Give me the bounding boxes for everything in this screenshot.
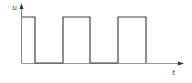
- waveform: [22, 17, 146, 63]
- y-axis-arrow-icon: [20, 3, 24, 9]
- x-axis-label: t: [172, 68, 176, 77]
- square-wave-diagram: u t: [0, 0, 192, 83]
- x-axis-arrow-icon: [178, 62, 184, 66]
- y-axis-label: u: [12, 3, 17, 12]
